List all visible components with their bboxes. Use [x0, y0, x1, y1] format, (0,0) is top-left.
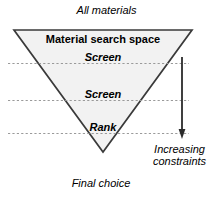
stage-label-material-search-space: Material search space	[14, 33, 192, 45]
material-selection-funnel-diagram: All materials Material search space Scre…	[0, 0, 213, 198]
input-label-all-materials: All materials	[0, 4, 213, 16]
stage-label-screen-2: Screen	[14, 88, 192, 100]
stage-label-screen-1: Screen	[14, 51, 192, 63]
increasing-constraints-label-line2: constraints	[146, 155, 213, 167]
increasing-constraints-label-line1: Increasing	[146, 143, 213, 155]
stage-label-rank: Rank	[14, 121, 192, 133]
output-label-final-choice: Final choice	[8, 177, 194, 189]
increasing-constraints-label: Increasing constraints	[146, 143, 213, 167]
